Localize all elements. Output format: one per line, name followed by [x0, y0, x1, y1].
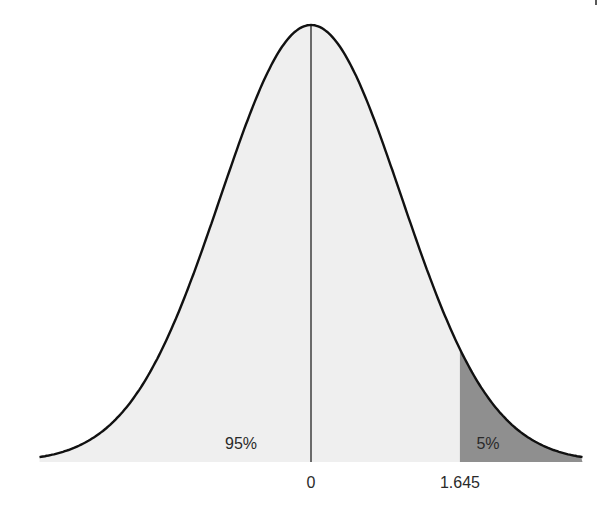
label-95-percent: 95%: [225, 435, 257, 452]
acceptance-region-95: [40, 25, 460, 462]
normal-distribution-chart: 95% 5% 0 1.645: [0, 0, 611, 516]
label-5-percent: 5%: [476, 435, 499, 452]
tick-label-zero: 0: [307, 474, 316, 491]
tick-label-critical: 1.645: [440, 474, 480, 491]
